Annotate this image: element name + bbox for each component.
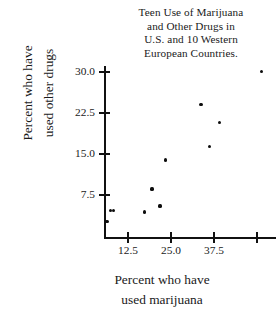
x-axis-tick-label: 37.5: [194, 245, 234, 256]
data-point: [158, 204, 161, 207]
data-point: [199, 103, 202, 106]
chart-title: Teen Use of Marijuana and Other Drugs in…: [108, 6, 274, 60]
y-axis-tick-label: 15.0: [55, 148, 95, 159]
data-point: [150, 187, 153, 190]
chart-title-line: Teen Use of Marijuana: [108, 6, 274, 20]
data-point: [112, 209, 115, 212]
y-axis-tick: [99, 153, 110, 154]
x-axis-tick: [256, 232, 257, 243]
data-point: [143, 210, 146, 213]
y-axis-tick-label: 7.5: [55, 189, 95, 200]
x-axis-line: [104, 237, 276, 239]
y-axis-tick: [99, 194, 110, 195]
data-point: [109, 209, 112, 212]
chart-title-line: European Countries.: [108, 47, 274, 61]
data-point: [208, 145, 211, 148]
x-axis-tick: [170, 232, 171, 243]
y-axis-tick-label: 30.0: [55, 66, 95, 77]
x-axis-label-line: used marijuana: [78, 290, 246, 310]
data-point: [218, 121, 221, 124]
scatter-chart: Teen Use of Marijuana and Other Drugs in…: [0, 0, 279, 314]
data-point: [260, 70, 263, 73]
x-axis-tick-label: 25.0: [151, 245, 191, 256]
chart-title-line: and Other Drugs in: [108, 20, 274, 34]
x-axis-tick: [213, 232, 214, 243]
x-axis-tick: [127, 232, 128, 243]
x-axis-tick-label: 12.5: [108, 245, 148, 256]
chart-title-line: U.S. and 10 Western: [108, 33, 274, 47]
y-axis-line: [104, 66, 106, 238]
y-axis-tick-label: 22.5: [55, 107, 95, 118]
x-axis-label: Percent who have used marijuana: [78, 270, 246, 310]
y-axis-tick: [99, 112, 110, 113]
y-axis-label-line: Percent who have: [17, 5, 38, 181]
x-axis-label-line: Percent who have: [78, 270, 246, 290]
data-point: [164, 158, 167, 161]
data-point: [105, 220, 108, 223]
y-axis-tick: [99, 71, 110, 72]
